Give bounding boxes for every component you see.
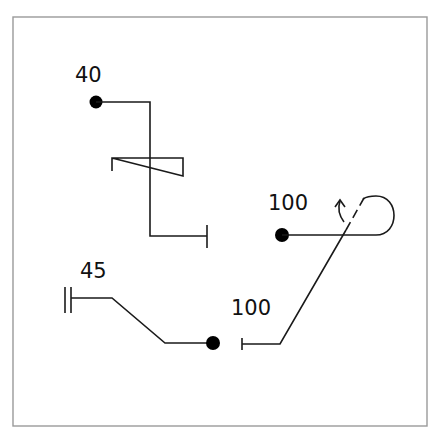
zigzag-icon bbox=[112, 158, 183, 176]
route-path bbox=[242, 230, 346, 344]
route-45: 45 bbox=[65, 259, 220, 350]
route-label-45: 45 bbox=[80, 259, 107, 283]
route-40: 40 bbox=[75, 63, 207, 248]
end-dot-icon bbox=[206, 336, 220, 350]
route-label-100-lower: 100 bbox=[231, 296, 271, 320]
dashed-continuation bbox=[346, 198, 364, 230]
route-100-upper: 100 bbox=[268, 191, 394, 242]
route-path bbox=[71, 298, 213, 343]
route-label-40: 40 bbox=[75, 63, 102, 87]
route-diagram: 40 100 45 100 bbox=[0, 0, 436, 440]
route-label-100-upper: 100 bbox=[268, 191, 308, 215]
